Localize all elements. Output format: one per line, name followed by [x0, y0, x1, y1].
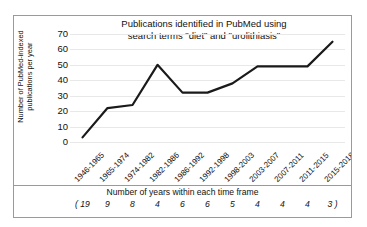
years-count-3: 4 — [155, 199, 160, 209]
years-count-10: 3 ) — [327, 199, 337, 209]
y-tick-label-30: 30 — [57, 91, 68, 101]
y-tick-label-70: 70 — [57, 29, 68, 39]
y-axis-title-line-2: publications per year — [26, 17, 35, 137]
chart-panel: Publications identified in PubMed using … — [14, 16, 351, 186]
years-count-9: 4 — [305, 199, 310, 209]
y-axis-title: Number of PubMed-indexed publications pe… — [17, 17, 34, 137]
years-count-4: 6 — [180, 199, 185, 209]
y-axis-tick-labels: 010203040506070 — [42, 34, 68, 142]
figure-container: Publications identified in PubMed using … — [13, 15, 352, 218]
years-count-8: 4 — [280, 199, 285, 209]
gridline — [70, 142, 345, 143]
y-tick-label-20: 20 — [57, 106, 68, 116]
years-count-5: 6 — [205, 199, 210, 209]
x-axis-tick-labels: 1946-19651965-19741974-19821982-19861986… — [70, 144, 345, 184]
years-count-6: 5 — [230, 199, 235, 209]
years-count-row: ( 199846654443 ) — [14, 199, 351, 213]
y-tick-label-60: 60 — [57, 45, 68, 55]
y-tick-label-40: 40 — [57, 76, 68, 86]
caption-text: Number of years within each time frame — [14, 187, 351, 197]
years-count-2: 8 — [130, 199, 135, 209]
years-count-0: ( 19 — [75, 199, 90, 209]
y-tick-label-0: 0 — [63, 137, 68, 147]
line-series — [70, 34, 345, 142]
series-polyline — [83, 42, 333, 138]
chart-title-line-1: Publications identified in PubMed using — [64, 18, 344, 30]
caption-panel: Number of years within each time frame (… — [14, 186, 351, 218]
y-tick-label-50: 50 — [57, 60, 68, 70]
plot-area — [70, 34, 345, 142]
y-tick-label-10: 10 — [57, 122, 68, 132]
years-count-1: 9 — [105, 199, 110, 209]
years-count-7: 4 — [255, 199, 260, 209]
